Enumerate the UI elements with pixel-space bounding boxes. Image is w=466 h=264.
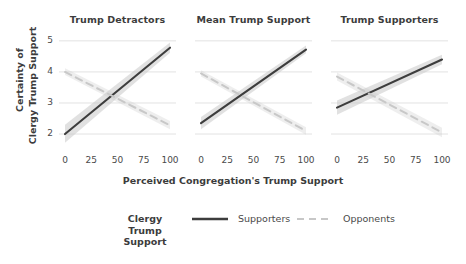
x-tick-label-p3-100: 100 <box>427 155 457 165</box>
y-tick-label-2: 2 <box>27 128 53 138</box>
y-tick-label-4: 4 <box>27 66 53 76</box>
y-axis-label-line1: Certainty of <box>14 25 25 135</box>
confidence-band-supporters <box>65 42 170 142</box>
legend-title-line-3: Support <box>110 236 180 248</box>
legend-label-opponents: Opponents <box>343 213 395 224</box>
series-line-supporters-panel-2 <box>201 50 306 124</box>
x-tick-label-p1-100: 100 <box>155 155 185 165</box>
y-tick-label-3: 3 <box>27 97 53 107</box>
legend-label-supporters: Supporters <box>238 213 290 224</box>
panel-title-3: Trump Supporters <box>310 14 466 25</box>
chart-figure: Certainty of Clergy Trump Support Percei… <box>0 0 466 264</box>
legend-title-line-1: Clergy <box>110 213 180 225</box>
y-tick-label-5: 5 <box>27 35 53 45</box>
x-tick-label-p2-100: 100 <box>291 155 321 165</box>
legend-title-line-2: Trump <box>110 225 180 237</box>
legend-title: ClergyTrumpSupport <box>110 213 180 248</box>
x-axis-label: Perceived Congregation's Trump Support <box>0 175 466 186</box>
chart-canvas <box>0 0 466 264</box>
